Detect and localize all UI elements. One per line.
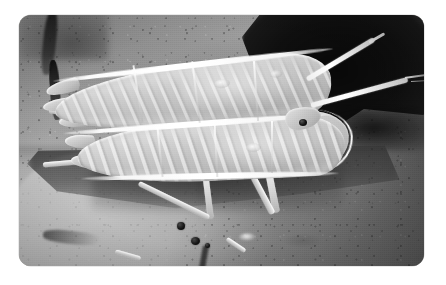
middle-leg-tibia — [138, 181, 210, 220]
tarsal-joint-dot — [177, 222, 185, 230]
page-canvas — [0, 0, 446, 285]
eye — [299, 119, 307, 126]
tarsal-joint-dot — [191, 237, 200, 245]
insect-photograph — [19, 15, 424, 266]
specular-highlight — [239, 233, 256, 241]
tarsal-joint-dot — [205, 243, 210, 248]
middle-leg-tarsus — [115, 249, 141, 260]
antenna-lower-tip — [405, 72, 424, 79]
wing-segment-notch — [271, 121, 273, 173]
bug-subject — [19, 15, 424, 266]
photo-caption — [19, 270, 424, 282]
antenna-lower-tip-fine — [411, 79, 424, 82]
lower-forewing-sheen — [205, 120, 330, 173]
